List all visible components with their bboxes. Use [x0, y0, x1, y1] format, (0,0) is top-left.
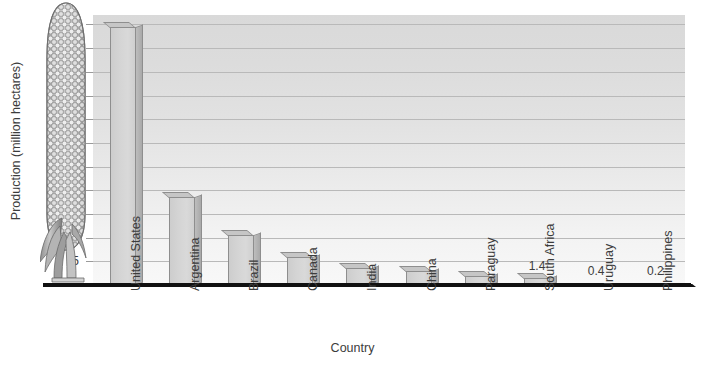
category-label: Uruguay [602, 171, 616, 291]
category-label: Argentina [188, 171, 202, 291]
gridline [93, 24, 685, 25]
x-axis-title: Country [0, 341, 705, 355]
category-label: Canada [306, 171, 320, 291]
category-label: China [425, 171, 439, 291]
chart-figure: 510152025303540455055 Production (millio… [0, 0, 705, 368]
gridline [93, 119, 685, 120]
category-label: South Africa [543, 171, 557, 291]
gridline [93, 167, 685, 168]
gridline [93, 96, 685, 97]
category-label: India [365, 171, 379, 291]
category-label: Brazil [247, 171, 261, 291]
category-label: Philippines [661, 171, 675, 291]
gridline [93, 143, 685, 144]
category-label: United States [129, 171, 143, 291]
corn-cob-illustration [40, 0, 92, 288]
gridline [93, 72, 685, 73]
gridline [93, 48, 685, 49]
category-label: Paraguay [484, 171, 498, 291]
y-axis-title: Production (million hectares) [9, 41, 23, 241]
